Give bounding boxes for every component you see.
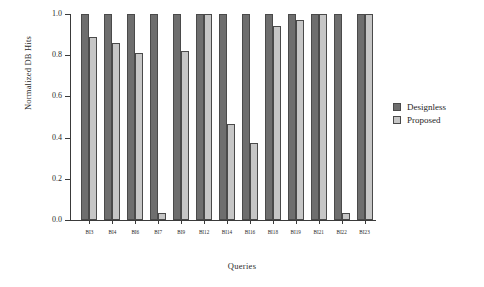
bar-proposed-bi21 (319, 14, 327, 220)
bar-proposed-bi22 (342, 213, 350, 220)
bar-designless-bi9 (173, 14, 181, 220)
chart-legend: Designless Proposed (393, 100, 446, 126)
bar-designless-bi3 (81, 14, 89, 220)
x-tick-mark (342, 220, 343, 224)
y-axis-title: Normalized DB Hits (23, 3, 33, 143)
bar-proposed-bi3 (89, 37, 97, 220)
bar-proposed-bi12 (204, 14, 212, 220)
x-tick-label-bi3: BI3 (77, 230, 101, 235)
y-tick-label: 0.6 (36, 92, 62, 100)
x-tick-label-bi9: BI9 (169, 230, 193, 235)
x-tick-mark (89, 220, 90, 224)
bar-proposed-bi18 (273, 26, 281, 220)
x-tick-mark (365, 220, 366, 224)
bar-proposed-bi6 (135, 53, 143, 220)
x-tick-label-bi23: BI23 (353, 230, 377, 235)
bar-designless-bi6 (127, 14, 135, 220)
y-tick-mark (65, 96, 70, 97)
bar-designless-bi7 (150, 14, 158, 220)
x-tick-label-bi12: BI12 (192, 230, 216, 235)
y-tick-mark (65, 138, 70, 139)
y-tick-mark (65, 14, 70, 15)
bar-proposed-bi14 (227, 124, 235, 220)
y-tick-mark (65, 220, 70, 221)
x-tick-mark (112, 220, 113, 224)
y-axis-line (70, 14, 71, 220)
x-tick-mark (181, 220, 182, 224)
x-tick-label-bi19: BI19 (284, 230, 308, 235)
bar-designless-bi14 (219, 14, 227, 220)
bar-proposed-bi9 (181, 51, 189, 220)
y-tick-label: 0.0 (36, 216, 62, 224)
x-tick-mark (319, 220, 320, 224)
y-tick-label: 1.0 (36, 10, 62, 18)
x-tick-mark (204, 220, 205, 224)
y-tick-label: 0.4 (36, 134, 62, 142)
bar-proposed-bi19 (296, 20, 304, 220)
y-tick-label: 0.2 (36, 175, 62, 183)
bar-proposed-bi4 (112, 43, 120, 220)
x-tick-label-bi6: BI6 (123, 230, 147, 235)
x-tick-mark (296, 220, 297, 224)
bar-designless-bi23 (357, 14, 365, 220)
plot-area (78, 14, 376, 220)
bar-proposed-bi16 (250, 143, 258, 220)
x-tick-label-bi16: BI16 (238, 230, 262, 235)
x-tick-label-bi22: BI22 (330, 230, 354, 235)
bar-proposed-bi7 (158, 213, 166, 220)
x-tick-mark (135, 220, 136, 224)
x-tick-mark (273, 220, 274, 224)
legend-label-designless: Designless (407, 102, 446, 112)
x-tick-label-bi18: BI18 (261, 230, 285, 235)
bar-designless-bi12 (196, 14, 204, 220)
bar-proposed-bi23 (365, 14, 373, 220)
x-axis-title: Queries (0, 261, 484, 271)
legend-swatch-designless-icon (393, 103, 401, 111)
x-tick-mark (158, 220, 159, 224)
legend-label-proposed: Proposed (407, 115, 441, 125)
x-tick-mark (250, 220, 251, 224)
y-tick-label: 0.8 (36, 51, 62, 59)
bar-designless-bi19 (288, 14, 296, 220)
x-tick-label-bi4: BI4 (100, 230, 124, 235)
bar-designless-bi21 (311, 14, 319, 220)
legend-item-proposed: Proposed (393, 113, 446, 126)
bar-chart-figure: Normalized DB Hits Queries 0.00.20.40.60… (0, 0, 484, 287)
x-tick-mark (227, 220, 228, 224)
bar-designless-bi22 (334, 14, 342, 220)
x-tick-label-bi14: BI14 (215, 230, 239, 235)
bar-designless-bi16 (242, 14, 250, 220)
y-tick-mark (65, 179, 70, 180)
x-tick-label-bi21: BI21 (307, 230, 331, 235)
x-axis-line (70, 220, 376, 221)
x-tick-label-bi7: BI7 (146, 230, 170, 235)
y-tick-mark (65, 55, 70, 56)
bar-designless-bi18 (265, 14, 273, 220)
legend-swatch-proposed-icon (393, 116, 401, 124)
legend-item-designless: Designless (393, 100, 446, 113)
bar-designless-bi4 (104, 14, 112, 220)
